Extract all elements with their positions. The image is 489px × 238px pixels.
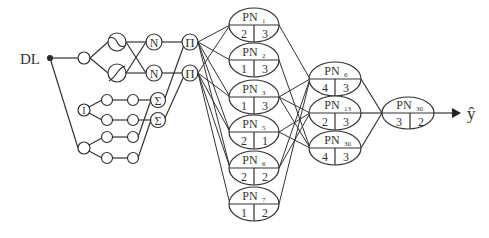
svg-text:4: 4: [322, 81, 328, 95]
svg-text:6: 6: [344, 71, 348, 79]
svg-text:1: 1: [241, 206, 247, 220]
product-label: Π: [185, 66, 194, 81]
svg-text:PN: PN: [396, 98, 412, 112]
pn-node: PN 2 1 3: [229, 43, 279, 77]
pn-node: PN 13 2 3: [309, 96, 361, 130]
arrow-head-icon: [452, 108, 461, 118]
svg-text:3: 3: [396, 115, 402, 129]
svg-text:30: 30: [344, 140, 352, 148]
output-label: ŷ: [467, 104, 476, 123]
svg-text:PN: PN: [242, 189, 258, 203]
svg-text:2: 2: [322, 115, 328, 129]
pn-node: PN 1 2 3: [229, 8, 279, 42]
integrator-label: I: [82, 105, 85, 116]
pn-node: PN 3 1 3: [229, 80, 279, 114]
svg-text:PN: PN: [242, 117, 258, 131]
svg-text:7: 7: [262, 196, 266, 204]
svg-text:3: 3: [343, 81, 349, 95]
svg-text:2: 2: [241, 170, 247, 184]
svg-text:PN: PN: [242, 82, 258, 96]
svg-text:3: 3: [262, 99, 268, 113]
svg-text:2: 2: [418, 115, 424, 129]
pn-output-node: PN 30 3 2: [382, 97, 434, 129]
svg-text:13: 13: [344, 105, 352, 113]
splitter-node: [78, 52, 90, 64]
sum-label: Σ: [155, 94, 162, 108]
svg-text:2: 2: [241, 134, 247, 148]
svg-text:3: 3: [262, 62, 268, 76]
normalize-label: N: [150, 67, 159, 81]
svg-text:2: 2: [262, 206, 268, 220]
svg-text:2: 2: [262, 52, 266, 60]
gmdh-network-diagram: DL N N I Σ Σ Π: [0, 0, 489, 238]
svg-text:1: 1: [262, 17, 266, 25]
svg-text:PN: PN: [242, 45, 258, 59]
svg-text:PN: PN: [242, 153, 258, 167]
svg-text:1: 1: [241, 62, 247, 76]
svg-text:3: 3: [343, 150, 349, 164]
delay-splitter-node: [78, 142, 90, 154]
svg-text:3: 3: [343, 115, 349, 129]
sum-label: Σ: [155, 114, 162, 128]
normalize-label: N: [150, 36, 159, 50]
svg-text:1: 1: [262, 134, 268, 148]
svg-text:PN: PN: [324, 133, 340, 147]
svg-text:5: 5: [262, 124, 266, 132]
svg-text:PN: PN: [324, 98, 340, 112]
pn-node: PN 6 4 3: [309, 62, 361, 96]
svg-text:1: 1: [241, 99, 247, 113]
svg-text:30: 30: [416, 105, 424, 113]
pn-node: PN 5 2 1: [229, 115, 279, 149]
pn-node: PN 30 4 3: [309, 131, 361, 165]
pn-node: PN 6 2 2: [229, 151, 279, 185]
svg-text:PN: PN: [324, 64, 340, 78]
pn-layer-1: PN 1 2 3 PN 2 1 3 PN 3 1 3 PN 5 2 1: [229, 8, 279, 221]
svg-text:3: 3: [262, 27, 268, 41]
svg-text:4: 4: [322, 150, 328, 164]
input-label: DL: [20, 51, 40, 67]
pn-node: PN 7 1 2: [229, 187, 279, 221]
pn-layer-2: PN 6 4 3 PN 13 2 3 PN 30 4 3: [309, 62, 361, 165]
svg-text:2: 2: [241, 27, 247, 41]
svg-text:6: 6: [262, 160, 266, 168]
product-label: Π: [185, 35, 194, 50]
svg-text:PN: PN: [242, 10, 258, 24]
svg-text:3: 3: [262, 89, 266, 97]
svg-text:2: 2: [262, 170, 268, 184]
